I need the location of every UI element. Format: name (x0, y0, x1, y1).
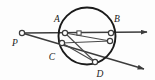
label-D: D (96, 69, 104, 79)
label-B: B (114, 14, 120, 24)
geometry-figure: P A B C D (0, 0, 155, 80)
point-A-marker (62, 30, 67, 35)
main-circle (59, 8, 116, 65)
ray-upper-secant (22, 32, 147, 33)
label-C: C (49, 52, 56, 62)
point-D-marker (92, 59, 97, 64)
label-A: A (53, 14, 60, 24)
figure-canvas: P A B C D (0, 0, 155, 80)
point-markers (19, 30, 113, 64)
point-P-marker (19, 30, 24, 35)
point-B-marker (108, 30, 113, 35)
chord-C-E (62, 41, 110, 43)
point-C-marker (59, 40, 64, 45)
label-P: P (11, 38, 18, 48)
chord-intersection-marker (77, 31, 81, 35)
point-E-marker (107, 38, 112, 43)
